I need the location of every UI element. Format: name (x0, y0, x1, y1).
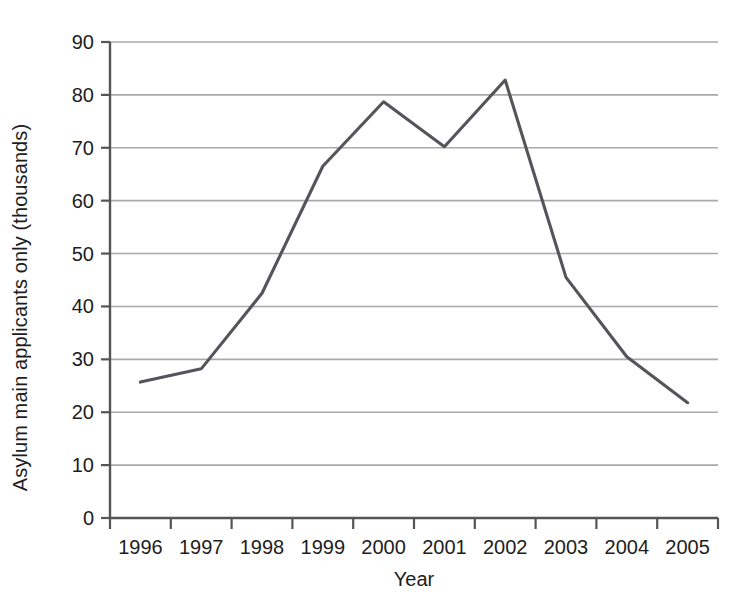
series-line (140, 80, 687, 403)
y-tick-label: 10 (72, 454, 94, 476)
x-tick-label: 2005 (665, 536, 710, 558)
data-series-line (140, 80, 687, 403)
y-tick-label: 60 (72, 190, 94, 212)
gridlines (110, 42, 718, 465)
x-axis-tick-labels: 1996199719981999200020012002200320042005 (118, 536, 710, 558)
axis-lines (110, 42, 718, 518)
chart-figure: Asylum main applicants only (thousands) … (0, 0, 743, 615)
y-tick-label: 80 (72, 84, 94, 106)
x-tick-label: 1998 (240, 536, 285, 558)
y-tick-label: 50 (72, 243, 94, 265)
x-tick-label: 2000 (361, 536, 406, 558)
x-tick-label: 1996 (118, 536, 163, 558)
x-axis-ticks (110, 518, 718, 529)
line-chart-plot: 0102030405060708090 19961997199819992000… (0, 0, 743, 615)
y-tick-label: 30 (72, 348, 94, 370)
y-tick-label: 20 (72, 401, 94, 423)
y-axis-ticks (101, 42, 110, 518)
y-axis-tick-labels: 0102030405060708090 (72, 31, 94, 529)
x-tick-label: 2003 (544, 536, 589, 558)
y-tick-label: 0 (83, 507, 94, 529)
y-tick-label: 40 (72, 295, 94, 317)
x-tick-label: 2002 (483, 536, 528, 558)
y-tick-label: 90 (72, 31, 94, 53)
x-tick-label: 1997 (179, 536, 224, 558)
x-tick-label: 2004 (605, 536, 650, 558)
x-tick-label: 1999 (301, 536, 346, 558)
x-tick-label: 2001 (422, 536, 467, 558)
y-tick-label: 70 (72, 137, 94, 159)
